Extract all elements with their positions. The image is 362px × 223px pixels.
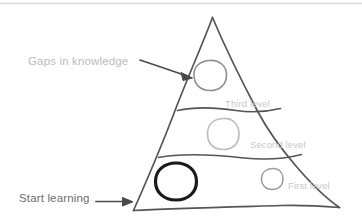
annotation-start-learning: Start learning	[19, 193, 90, 205]
annotation-gaps-in-knowledge: Gaps in knowledge	[28, 56, 128, 68]
pyramid-left-edge	[134, 18, 213, 211]
first-level-circle-bold	[156, 163, 197, 200]
first-level-circle-small	[262, 168, 284, 189]
level-label-second: Second level	[250, 140, 306, 150]
level-divider-second-first	[159, 155, 302, 160]
pyramid-right-edge	[213, 18, 340, 208]
pyramid-diagram: Gaps in knowledge Start learning Third l…	[0, 0, 362, 223]
level-label-third: Third level	[225, 99, 270, 109]
third-level-circle	[194, 60, 227, 90]
second-level-circle	[208, 118, 240, 149]
gaps-in-knowledge-arrow	[140, 60, 193, 81]
start-learning-arrow	[96, 198, 133, 207]
level-label-first: First level	[288, 181, 330, 191]
pyramid-base-edge	[134, 205, 340, 210]
